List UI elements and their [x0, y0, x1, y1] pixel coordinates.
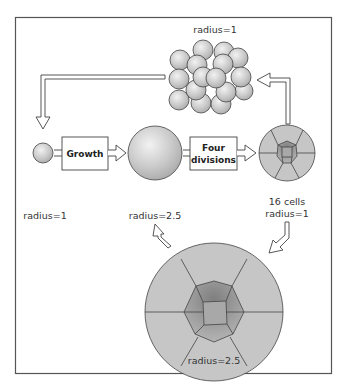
- blastula-large-radius-label: radius=2.5: [188, 355, 240, 366]
- divisions-label-line1: Four: [202, 143, 225, 153]
- small-sphere-radius-label: radius=1: [23, 210, 66, 221]
- cluster-radius-label: radius=1: [193, 24, 236, 35]
- blastula-small-radius-label: radius=1: [265, 208, 308, 219]
- blastula-small-cells-label: 16 cells: [269, 196, 305, 207]
- large-sphere-radius-label: radius=2.5: [129, 210, 181, 221]
- cell-cycle-diagram: radius=1 Growth: [0, 0, 339, 386]
- growth-label: Growth: [66, 149, 103, 159]
- large-sphere: [128, 126, 182, 180]
- blastula-small: [259, 125, 315, 181]
- small-sphere: [33, 143, 53, 163]
- divisions-label-line2: divisions: [191, 155, 236, 165]
- divisions-box: [190, 137, 237, 170]
